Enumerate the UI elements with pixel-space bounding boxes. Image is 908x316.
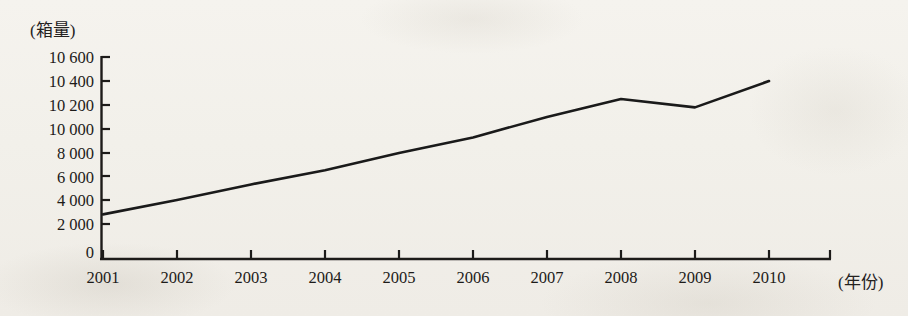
data-series-line bbox=[103, 81, 769, 214]
y-axis-ticks bbox=[102, 57, 111, 224]
plot-area bbox=[0, 0, 908, 316]
line-chart-figure: (箱量) (年份) 10 600 10 400 10 200 10 000 8 … bbox=[0, 0, 908, 316]
x-axis-ticks bbox=[103, 250, 830, 259]
